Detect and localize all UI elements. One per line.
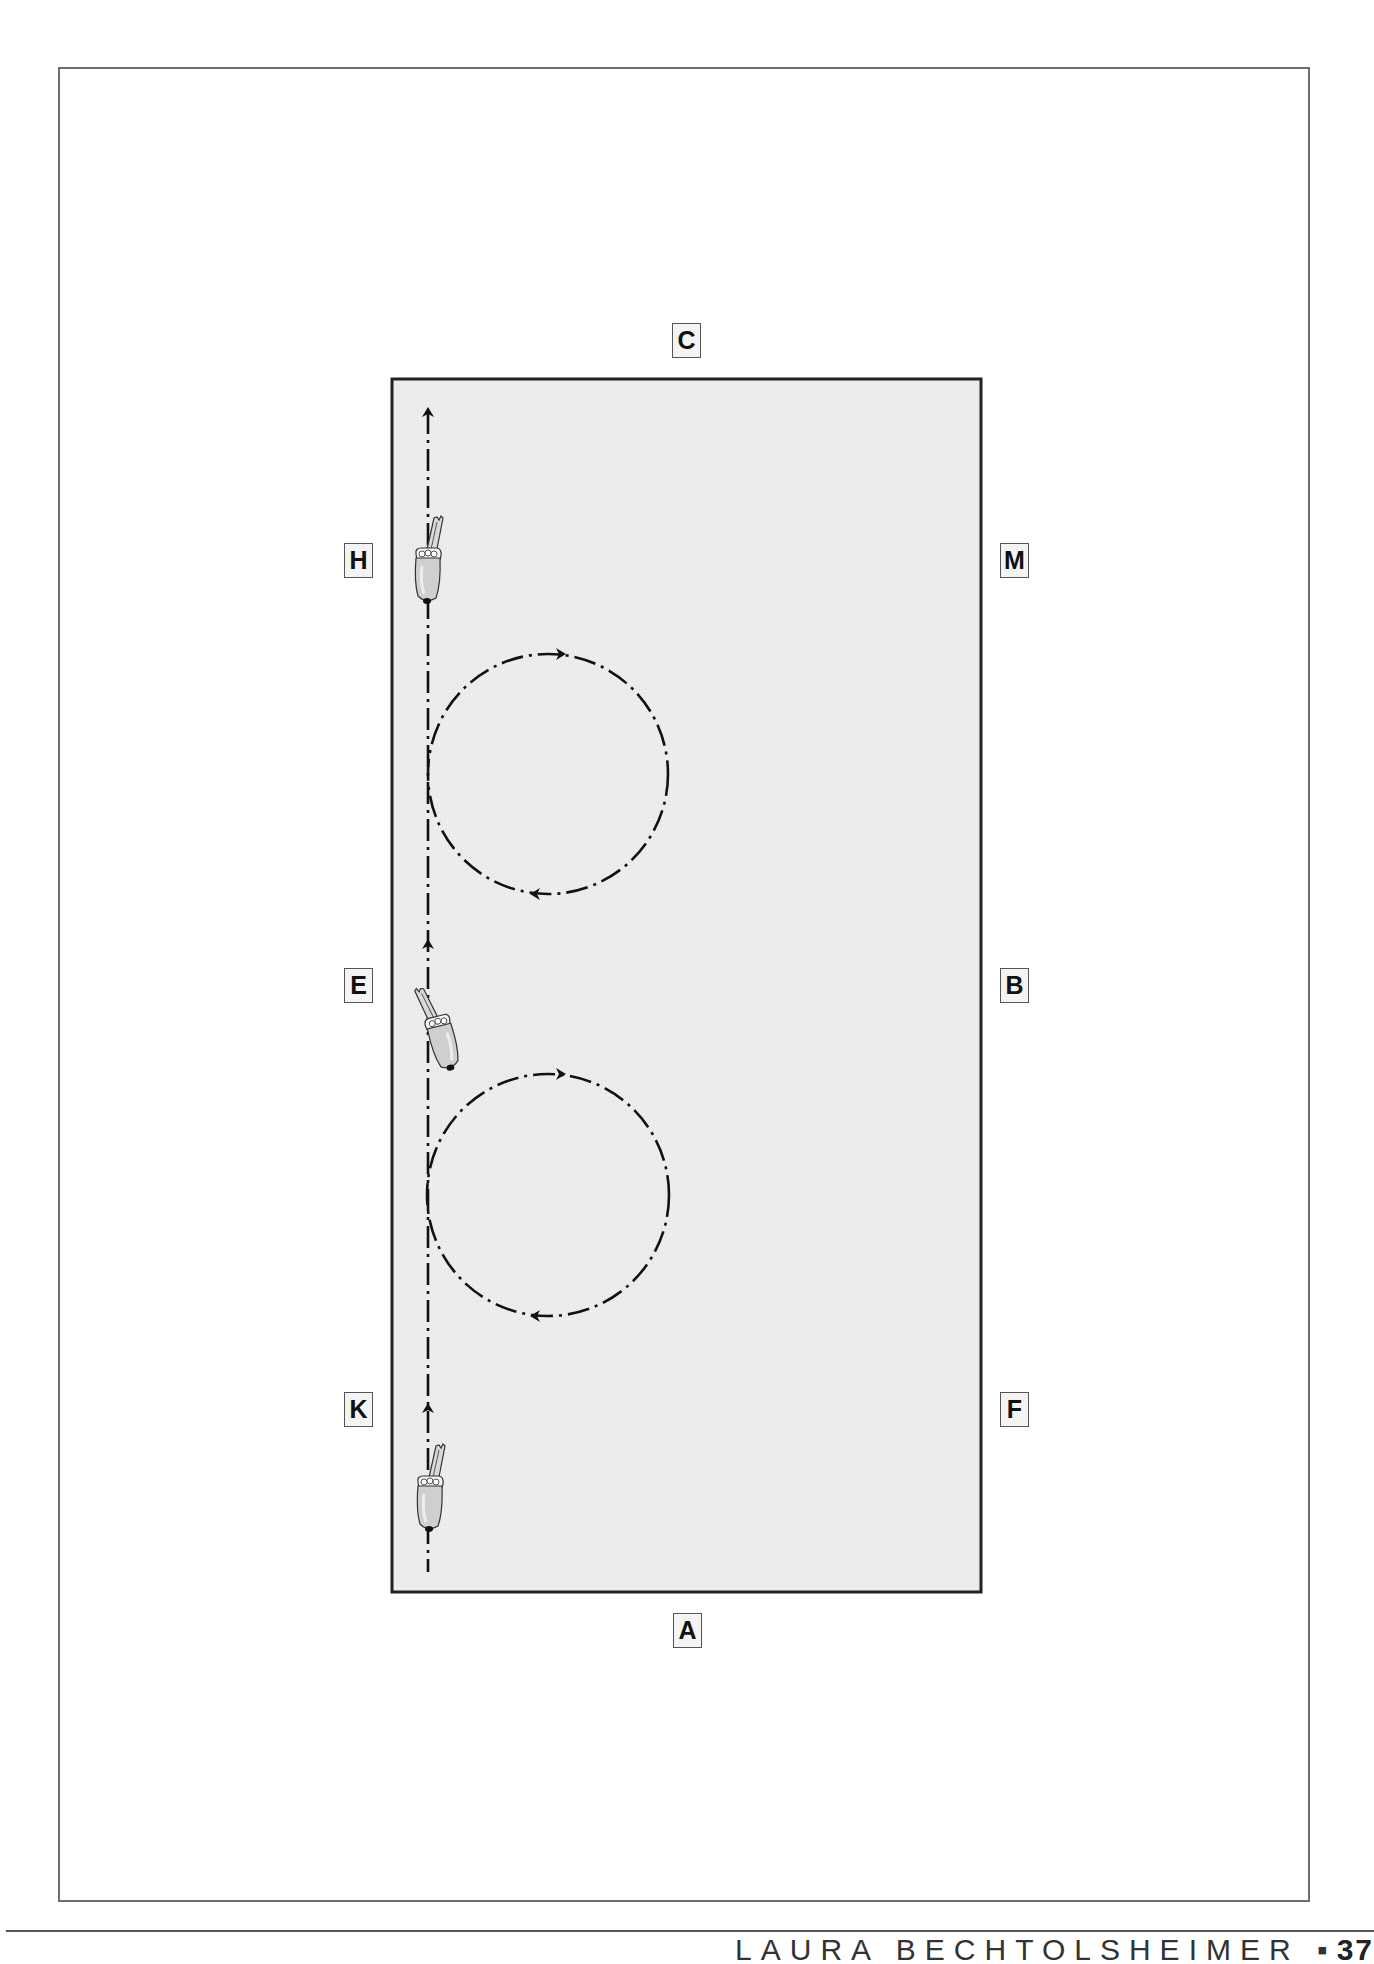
marker-c: C xyxy=(672,323,701,358)
marker-h: H xyxy=(344,543,373,578)
marker-k: K xyxy=(344,1392,373,1427)
arena xyxy=(392,379,981,1592)
footer-rule xyxy=(6,1930,1374,1932)
marker-f: F xyxy=(1000,1392,1029,1427)
page-number: 37 xyxy=(1337,1933,1374,1964)
marker-b: B xyxy=(1000,968,1029,1003)
marker-m: M xyxy=(1000,543,1029,578)
marker-a: A xyxy=(673,1613,702,1648)
page-footer: LAURA BECHTOLSHEIMER ▪37 xyxy=(735,1935,1374,1964)
footer-separator: ▪ xyxy=(1317,1933,1337,1964)
footer-author: LAURA BECHTOLSHEIMER xyxy=(735,1933,1300,1964)
marker-e: E xyxy=(344,968,373,1003)
